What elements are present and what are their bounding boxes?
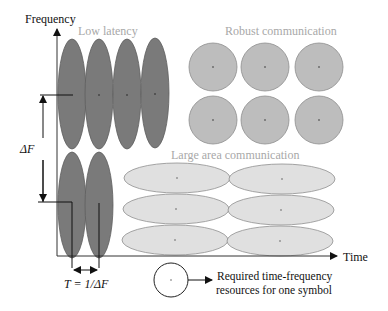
t-symbol-label: T = 1/ΔF [64,277,109,291]
x-axis-label: Time [343,250,368,264]
robust-communication-label: Robust communication [225,24,337,38]
delta-f-label: ΔF [19,142,35,156]
low-latency-label: Low latency [78,24,138,38]
y-axis-label: Frequency [25,12,76,26]
time-frequency-diagram: Frequency Time Low latency Robust commun… [0,0,388,311]
low-latency-ellipse [58,39,86,149]
low-latency-ellipse [85,39,113,149]
low-latency-ellipse [141,38,169,148]
low-latency-ellipse [113,39,141,149]
robust-communication-group [189,43,343,144]
low-latency-group [58,38,169,258]
legend-text-line2: resources for one symbol [216,284,332,297]
legend-text-line1: Required time-frequency [217,270,333,283]
large-area-communication-label: Large area communication [171,148,299,162]
large-area-communication-group [122,163,335,256]
